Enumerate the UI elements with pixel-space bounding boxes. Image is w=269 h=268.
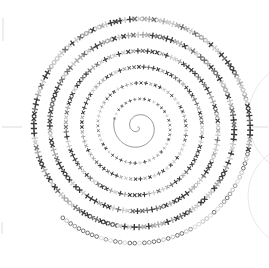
spiral-marker-stroke	[198, 74, 199, 79]
spiral-marker-stroke	[177, 179, 182, 180]
spiral-marker-stroke	[101, 80, 106, 81]
spiral-marker-stroke	[122, 226, 128, 227]
spiral-marker-stroke	[94, 179, 95, 184]
spiral-marker-stroke	[53, 60, 59, 61]
spiral-marker-stroke	[207, 39, 208, 45]
spiral-marker-stroke	[249, 142, 250, 148]
spiral-marker-stroke	[175, 97, 176, 101]
spiral-marker-stroke	[218, 132, 219, 138]
spiral-marker-stroke	[201, 135, 202, 140]
spiral-marker-stroke	[203, 36, 204, 42]
spiral-marker-stroke	[194, 205, 200, 206]
spiral-marker-stroke	[77, 81, 82, 82]
spiral-marker-stroke	[197, 51, 198, 57]
spiral-marker-stroke	[50, 64, 56, 65]
spiral-marker-stroke	[150, 35, 156, 36]
spiral-marker-stroke	[125, 35, 131, 36]
spiral-marker-stroke	[198, 202, 204, 203]
spiral-marker-stroke	[214, 68, 215, 74]
spiral-marker-stroke	[64, 71, 70, 72]
spiral-marker-stroke	[67, 134, 68, 139]
spiral-marker-stroke	[145, 51, 150, 52]
spiral-marker-stroke	[144, 210, 150, 211]
spiral-marker-stroke	[183, 61, 184, 66]
spiral-marker-stroke	[50, 113, 51, 119]
spiral-plot-figure	[0, 0, 269, 268]
spiral-marker-stroke	[83, 169, 84, 174]
spiral-marker-stroke	[69, 177, 70, 183]
spiral-marker-stroke	[146, 226, 152, 227]
spiral-marker-stroke	[175, 76, 176, 81]
spiral-plot-canvas	[0, 0, 269, 268]
spiral-marker-stroke	[146, 19, 152, 20]
spiral-marker-stroke	[211, 188, 217, 189]
spiral-marker-stroke	[81, 54, 87, 55]
